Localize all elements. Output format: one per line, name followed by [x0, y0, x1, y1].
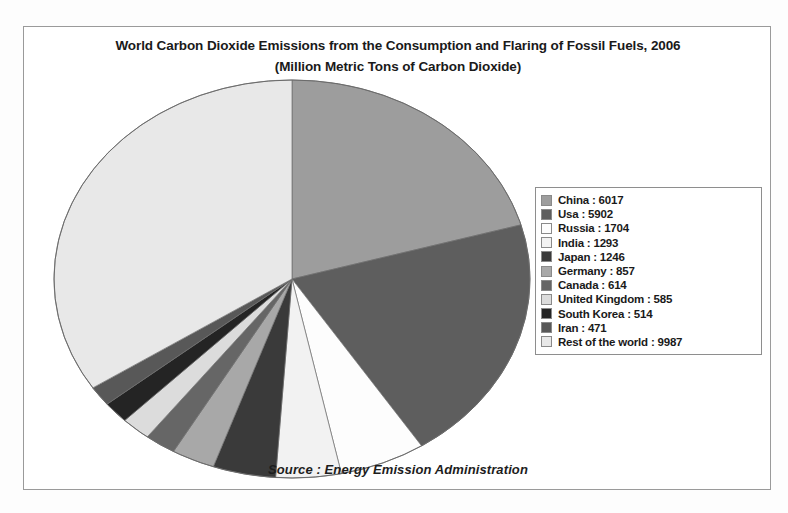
legend-item-label: India : 1293	[558, 237, 618, 249]
legend-item: Rest of the world : 9987	[541, 335, 755, 349]
legend-swatch-icon	[541, 195, 552, 206]
page-subtitle: (Million Metric Tons of Carbon Dioxide)	[24, 56, 772, 77]
pie-chart-svg	[44, 79, 540, 479]
page-title: World Carbon Dioxide Emissions from the …	[24, 35, 772, 56]
legend-swatch-icon	[541, 322, 552, 333]
legend-item: Japan : 1246	[541, 250, 755, 264]
legend-swatch-icon	[541, 237, 552, 248]
source-caption: Source : Energy Emission Administration	[24, 462, 772, 477]
legend-item: Usa : 5902	[541, 207, 755, 221]
legend-item-label: United Kingdom : 585	[558, 293, 672, 305]
legend-swatch-icon	[541, 266, 552, 277]
legend-item: India : 1293	[541, 236, 755, 250]
legend-item-label: Germany : 857	[558, 265, 635, 277]
legend-item-label: Canada : 614	[558, 279, 627, 291]
legend-item-label: Usa : 5902	[558, 208, 613, 220]
legend-item-label: Iran : 471	[558, 322, 607, 334]
pie-chart	[44, 79, 540, 479]
chart-title-block: World Carbon Dioxide Emissions from the …	[24, 35, 772, 77]
legend-swatch-icon	[541, 308, 552, 319]
legend-item: United Kingdom : 585	[541, 292, 755, 306]
legend-swatch-icon	[541, 294, 552, 305]
legend-item: Canada : 614	[541, 278, 755, 292]
legend-item-label: China : 6017	[558, 194, 623, 206]
legend-item-label: Rest of the world : 9987	[558, 336, 682, 348]
legend-swatch-icon	[541, 251, 552, 262]
legend-item-label: Japan : 1246	[558, 251, 625, 263]
legend-swatch-icon	[541, 280, 552, 291]
legend-item: Iran : 471	[541, 321, 755, 335]
chart-page: World Carbon Dioxide Emissions from the …	[0, 0, 788, 513]
legend-item: Germany : 857	[541, 264, 755, 278]
legend-item: Russia : 1704	[541, 221, 755, 235]
legend-swatch-icon	[541, 336, 552, 347]
legend-item: South Korea : 514	[541, 307, 755, 321]
legend-swatch-icon	[541, 209, 552, 220]
legend-item-label: Russia : 1704	[558, 222, 629, 234]
chart-frame: World Carbon Dioxide Emissions from the …	[23, 26, 771, 490]
chart-legend: China : 6017Usa : 5902Russia : 1704India…	[535, 187, 762, 355]
legend-swatch-icon	[541, 223, 552, 234]
legend-item: China : 6017	[541, 193, 755, 207]
legend-item-label: South Korea : 514	[558, 308, 652, 320]
